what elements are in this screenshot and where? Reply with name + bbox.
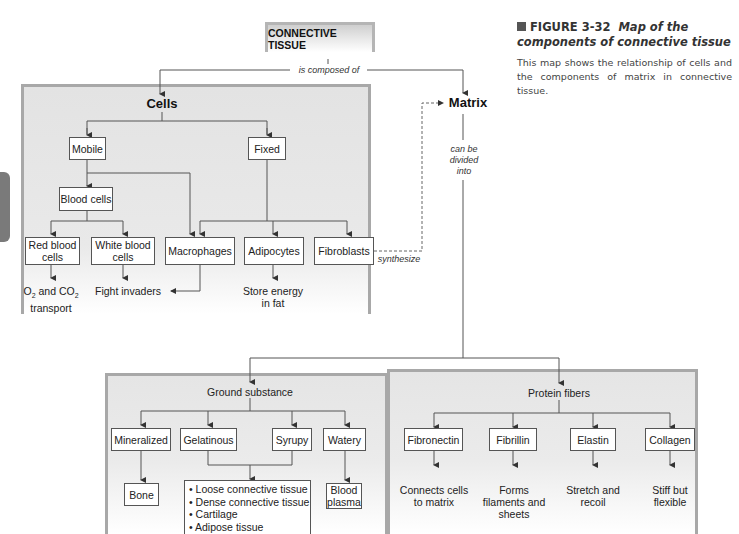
mobile-label: Mobile bbox=[72, 143, 103, 155]
connective-tissue-types-list: Loose connective tissue Dense connective… bbox=[184, 480, 311, 534]
square-bullet-icon bbox=[517, 22, 526, 31]
macrophages-box: Macrophages bbox=[165, 237, 235, 265]
blood-plasma-box: Blood plasma bbox=[326, 483, 362, 509]
bone-label: Bone bbox=[129, 489, 154, 501]
can-be-divided-into-label: can be divided into bbox=[443, 144, 485, 177]
fibroblasts-box: Fibroblasts bbox=[314, 237, 374, 265]
figure-caption: FIGURE 3-32 Map of the components of con… bbox=[517, 20, 732, 98]
macrophages-label: Macrophages bbox=[168, 245, 232, 257]
fixed-label: Fixed bbox=[254, 143, 280, 155]
fibrillin-function: Forms filaments and sheets bbox=[478, 484, 550, 520]
white-blood-cells-label: White blood cells bbox=[92, 239, 154, 263]
white-blood-cells-box: White blood cells bbox=[91, 237, 155, 265]
blood-cells-label: Blood cells bbox=[61, 193, 112, 205]
fixed-box: Fixed bbox=[248, 137, 286, 160]
figure-description: This map shows the relationship of cells… bbox=[517, 56, 732, 98]
fibronectin-box: Fibronectin bbox=[404, 428, 463, 451]
cells-heading: Cells bbox=[132, 98, 192, 110]
mineralized-label: Mineralized bbox=[114, 434, 168, 446]
collagen-function: Stiff but flexible bbox=[646, 484, 694, 508]
red-blood-cell-function: O2 and CO2transport bbox=[18, 285, 84, 314]
blood-cells-box: Blood cells bbox=[59, 187, 113, 211]
list-item: Loose connective tissue bbox=[189, 483, 310, 496]
adipocytes-label: Adipocytes bbox=[248, 245, 299, 257]
syrupy-label: Syrupy bbox=[276, 434, 309, 446]
fibronectin-label: Fibronectin bbox=[408, 434, 460, 446]
red-blood-cells-box: Red blood cells bbox=[25, 237, 80, 265]
mobile-box: Mobile bbox=[69, 137, 106, 160]
ground-substance-heading: Ground substance bbox=[200, 386, 300, 398]
root-label: CONNECTIVE TISSUE bbox=[268, 27, 372, 51]
figure-number: FIGURE 3-32 bbox=[530, 20, 610, 34]
fibronectin-function: Connects cells to matrix bbox=[396, 484, 472, 508]
gelatinous-label: Gelatinous bbox=[183, 434, 233, 446]
figure-title: FIGURE 3-32 Map of the components of con… bbox=[517, 20, 732, 50]
protein-fibers-heading: Protein fibers bbox=[519, 387, 599, 399]
syrupy-box: Syrupy bbox=[272, 428, 312, 451]
fibrillin-label: Fibrillin bbox=[496, 434, 529, 446]
bone-box: Bone bbox=[124, 483, 159, 506]
list-item: Dense connective tissue bbox=[189, 496, 310, 509]
gelatinous-box: Gelatinous bbox=[180, 428, 237, 451]
red-blood-cells-label: Red blood cells bbox=[26, 239, 79, 263]
elastin-label: Elastin bbox=[577, 434, 609, 446]
adipocyte-function: Store energy in fat bbox=[240, 285, 306, 309]
matrix-heading: Matrix bbox=[443, 97, 493, 109]
white-blood-cell-function: Fight invaders bbox=[92, 285, 164, 297]
adipocytes-box: Adipocytes bbox=[244, 237, 304, 265]
collagen-box: Collagen bbox=[645, 428, 695, 451]
mineralized-box: Mineralized bbox=[111, 428, 171, 451]
collagen-label: Collagen bbox=[649, 434, 690, 446]
list-item: Cartilage bbox=[189, 508, 310, 521]
connective-tissue-title: CONNECTIVE TISSUE bbox=[265, 22, 375, 52]
fibrillin-box: Fibrillin bbox=[489, 428, 537, 451]
watery-box: Watery bbox=[323, 428, 366, 451]
synthesize-label: synthesize bbox=[376, 253, 422, 265]
fibroblasts-label: Fibroblasts bbox=[318, 245, 369, 257]
list-item: Adipose tissue bbox=[189, 521, 310, 534]
elastin-function: Stretch and recoil bbox=[565, 484, 621, 508]
is-composed-of-label: is composed of bbox=[292, 64, 366, 76]
watery-label: Watery bbox=[328, 434, 361, 446]
blood-plasma-label: Blood plasma bbox=[327, 484, 361, 508]
elastin-box: Elastin bbox=[570, 428, 616, 451]
